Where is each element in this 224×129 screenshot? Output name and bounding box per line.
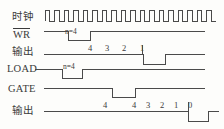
- gate-waveform: [44, 88, 205, 97]
- timing-diagram: 时钟 WR 输出 LOAD GATE 输出 n=4 n=4 4 3 2 1 4 …: [0, 0, 224, 129]
- waveform-canvas: [0, 0, 224, 129]
- wr-waveform: [44, 31, 205, 40]
- output-1-waveform: [44, 54, 205, 64]
- clock-waveform: [45, 10, 216, 21]
- load-waveform: [44, 69, 205, 78]
- output-2-waveform: [44, 111, 219, 121]
